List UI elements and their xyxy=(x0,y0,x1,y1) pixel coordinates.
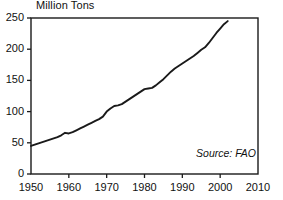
x-tick-label: 1970 xyxy=(87,181,127,193)
x-tick-label: 1980 xyxy=(125,181,165,193)
plot-area xyxy=(0,0,283,200)
x-tick-label: 1990 xyxy=(162,181,202,193)
y-tick-label: 200 xyxy=(0,42,24,54)
source-annotation: Source: FAO xyxy=(196,147,256,159)
x-tick-label: 2000 xyxy=(200,181,240,193)
data-series-line xyxy=(31,21,228,146)
y-tick-label: 250 xyxy=(0,11,24,23)
x-tick-label: 1950 xyxy=(11,181,51,193)
y-tick-label: 100 xyxy=(0,105,24,117)
chart-container: Million Tons 050100150200250 19501960197… xyxy=(0,0,283,200)
y-tick-label: 0 xyxy=(0,167,24,179)
x-tick-label: 1960 xyxy=(49,181,89,193)
y-tick-label: 150 xyxy=(0,73,24,85)
x-tick-label: 2010 xyxy=(238,181,278,193)
y-tick-label: 50 xyxy=(0,136,24,148)
